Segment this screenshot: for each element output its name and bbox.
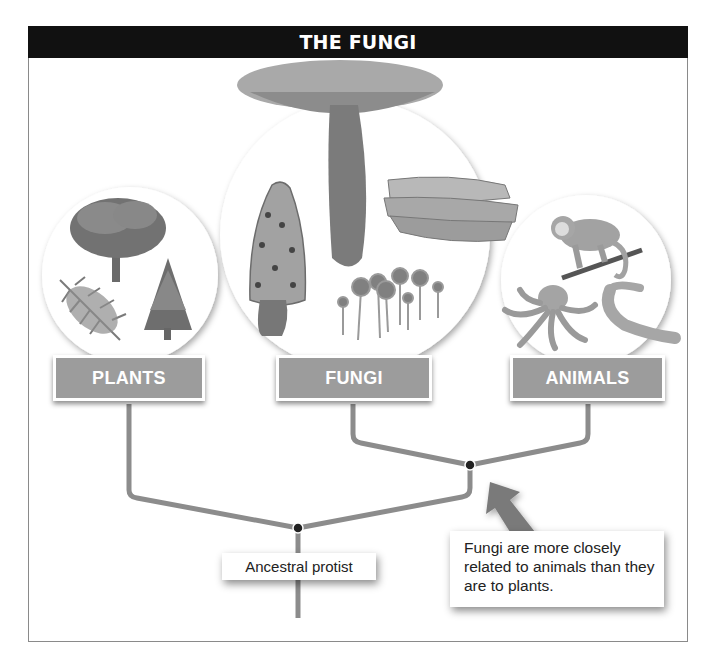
animals-label: ANIMALS [510, 355, 665, 401]
root-node [293, 523, 303, 533]
ancestral-protist-label: Ancestral protist [222, 553, 376, 580]
fungi-label: FUNGI [276, 355, 432, 401]
callout-note: Fungi are more closely related to animal… [450, 531, 664, 607]
fungi-animals-node [465, 460, 475, 470]
plants-label: PLANTS [53, 355, 205, 401]
shelf-fungus-icon [384, 177, 518, 241]
